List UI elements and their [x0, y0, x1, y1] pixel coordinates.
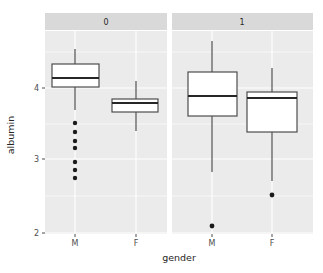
y-tick-label-3: 3 [34, 155, 39, 164]
box-iqr [188, 72, 237, 116]
box-iqr [112, 99, 158, 112]
strip-label-left: 0 [103, 18, 108, 27]
y-tick-label-4: 4 [34, 84, 39, 93]
panel-left [45, 31, 167, 234]
outlier-points [270, 193, 275, 198]
outlier-point [73, 146, 77, 150]
boxplot-figure: 0 1 [0, 0, 323, 273]
outlier-point [210, 224, 215, 229]
outlier-point [73, 176, 77, 180]
x-tick-label-p1-F: F [270, 239, 275, 248]
outlier-point [73, 139, 77, 143]
chart-svg: 0 1 [0, 0, 323, 273]
outlier-point [73, 121, 77, 125]
outlier-point [73, 130, 77, 134]
x-axis-title: gender [162, 252, 196, 263]
x-axis: M F M F gender [72, 234, 275, 263]
panel-background-left [45, 31, 167, 234]
x-tick-label-p1-M: M [209, 239, 216, 248]
facet-strip-right: 1 [172, 13, 313, 30]
facet-strip-left: 0 [45, 13, 167, 30]
box-iqr [52, 64, 99, 87]
outlier-point [73, 168, 77, 172]
strip-label-right: 1 [239, 18, 244, 27]
y-axis-title: albumin [5, 116, 16, 154]
y-tick-label-2: 2 [34, 229, 39, 238]
panel-right [172, 31, 313, 234]
outlier-point [270, 193, 275, 198]
outlier-point [73, 160, 77, 164]
x-tick-label-p0-F: F [134, 239, 139, 248]
outlier-points [210, 224, 215, 229]
y-axis: 4 3 2 albumin [5, 84, 45, 238]
x-tick-label-p0-M: M [72, 239, 79, 248]
